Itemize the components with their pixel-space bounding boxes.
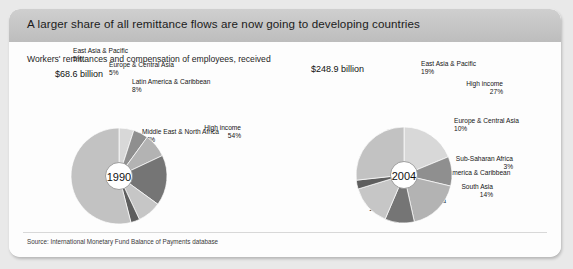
slice-label-name: Sub-Saharan Africa xyxy=(456,155,513,162)
slice-label-name: East Asia & Pacific xyxy=(73,47,128,54)
slice-label: High income54% xyxy=(204,124,241,141)
slice-label-percent: 8% xyxy=(132,86,210,94)
slice-label-percent: 14% xyxy=(461,191,493,199)
slice-label-percent: 54% xyxy=(204,132,241,140)
slice-label-percent: 5% xyxy=(109,69,174,77)
slice-label: Latin America & Caribbean8% xyxy=(132,78,210,95)
slice-label-percent: 3% xyxy=(456,163,513,171)
slice-label-name: High income xyxy=(466,80,503,87)
year-badge-label: 2004 xyxy=(392,170,416,182)
pie-svg-1990: 1990 xyxy=(71,128,167,224)
total-label-2004: $248.9 billion xyxy=(311,64,364,74)
figure-header-band: A larger share of all remittance flows a… xyxy=(9,9,561,42)
page-title: A larger share of all remittance flows a… xyxy=(27,17,420,30)
total-label-1990: $68.6 billion xyxy=(55,69,103,79)
slice-label-name: Latin America & Caribbean xyxy=(132,78,210,85)
figure-root: A larger share of all remittance flows a… xyxy=(0,0,573,269)
slice-label: Sub-Saharan Africa3% xyxy=(456,155,513,172)
slice-label-name: Europe & Central Asia xyxy=(109,61,174,68)
slice-label-name: Europe & Central Asia xyxy=(454,117,519,124)
source-note: Source: International Monetary Fund Bala… xyxy=(27,238,218,245)
year-badge-label: 1990 xyxy=(107,171,131,183)
slice-label-percent: 27% xyxy=(466,88,503,96)
slice-label-percent: 19% xyxy=(421,68,476,76)
pie-chart-1990: $68.6 billion East Asia & Pacific5%Europ… xyxy=(9,42,285,257)
slice-label: Europe & Central Asia10% xyxy=(454,117,519,134)
slice-label: South Asia14% xyxy=(461,183,493,200)
slice-label-name: East Asia & Pacific xyxy=(421,60,476,67)
pie-chart-2004: $248.9 billion East Asia & Pacific19%Eur… xyxy=(274,42,550,257)
slice-label-percent: 10% xyxy=(454,125,519,133)
figure-card: A larger share of all remittance flows a… xyxy=(9,9,561,257)
plot-area: Workers' remittances and compensation of… xyxy=(9,42,561,257)
panel-divider xyxy=(23,232,547,233)
slice-label-name: High income xyxy=(204,124,241,131)
slice-label: High income27% xyxy=(466,80,503,97)
pie-svg-2004: 2004 xyxy=(356,127,452,223)
slice-label-name: South Asia xyxy=(461,183,493,190)
slice-label: East Asia & Pacific19% xyxy=(421,60,476,77)
slice-label: Europe & Central Asia5% xyxy=(109,61,174,78)
